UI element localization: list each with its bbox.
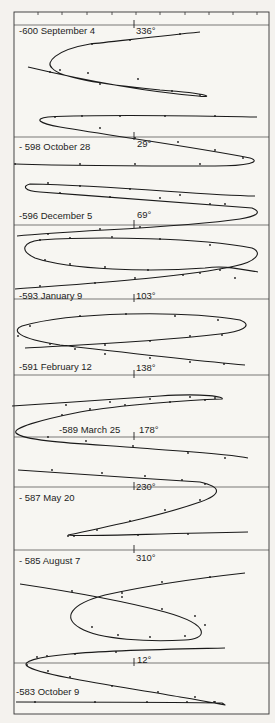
position-dot [199, 94, 201, 96]
position-dot [69, 676, 71, 678]
position-dot [187, 452, 189, 454]
position-dot [184, 635, 186, 637]
position-dot [99, 127, 101, 129]
longitude-label: 103° [136, 291, 156, 301]
position-dot [144, 475, 146, 477]
position-dot [194, 696, 196, 698]
position-dot [147, 269, 149, 271]
opposition-date-label: - 598 October 28 [19, 142, 90, 152]
position-dot [109, 401, 111, 403]
opposition-date-label: -593 January 9 [19, 291, 82, 301]
opposition-date-label: -589 March 25 [59, 425, 120, 435]
position-dot [121, 592, 123, 594]
position-dot [47, 182, 49, 184]
position-dot [157, 691, 159, 693]
position-dot [134, 137, 136, 139]
position-dot [209, 244, 211, 246]
position-dot [79, 163, 81, 165]
position-dot [139, 226, 141, 228]
position-dot [209, 576, 211, 578]
position-dot [111, 236, 113, 238]
longitude-label: 12° [137, 655, 151, 665]
position-dot [39, 285, 41, 287]
position-dot [217, 319, 219, 321]
position-dot [87, 72, 89, 74]
position-dot [219, 269, 221, 271]
position-dot [61, 414, 63, 416]
position-dot [149, 398, 151, 400]
position-dot [117, 634, 119, 636]
position-dot [214, 149, 216, 151]
position-dot [221, 334, 223, 336]
longitude-label: 178° [139, 425, 159, 435]
position-dot [69, 263, 71, 265]
position-dot [104, 344, 106, 346]
opposition-date-label: -596 December 5 [19, 211, 92, 221]
position-dot [179, 194, 181, 196]
position-dot [47, 233, 49, 235]
position-dot [81, 115, 83, 117]
position-dot [234, 277, 236, 279]
position-dot [71, 590, 73, 592]
position-dot [179, 33, 181, 35]
longitude-label: 69° [137, 210, 151, 220]
position-dot [47, 670, 49, 672]
position-dot [132, 445, 134, 447]
position-dot [26, 664, 28, 666]
position-dot [164, 115, 166, 117]
position-dot [134, 163, 136, 165]
position-dot [109, 196, 111, 198]
position-dot [161, 581, 163, 583]
position-dot [204, 399, 206, 401]
position-dot [213, 701, 215, 703]
position-dot [119, 115, 121, 117]
position-dot [174, 315, 176, 317]
opposition-date-label: - 585 August 7 [19, 556, 80, 566]
position-dot [242, 157, 244, 159]
position-dot [49, 71, 51, 73]
position-dot [171, 90, 173, 92]
position-dot [101, 472, 103, 474]
position-dot [209, 203, 211, 205]
position-dot [29, 325, 31, 327]
position-dot [159, 197, 161, 199]
position-dot [59, 69, 61, 71]
position-dot [137, 78, 139, 80]
position-dot [199, 272, 201, 274]
position-dot [137, 534, 139, 536]
position-dot [204, 624, 206, 626]
position-dot [129, 188, 131, 190]
longitude-label: 230° [136, 482, 156, 492]
position-dot [74, 653, 76, 655]
opposition-date-label: - 587 May 20 [19, 493, 74, 503]
position-dot [204, 483, 206, 485]
position-dot [51, 469, 53, 471]
position-dot [49, 343, 51, 345]
position-dot [199, 499, 201, 501]
position-dot [149, 357, 151, 359]
position-dot [224, 457, 226, 459]
position-dot [149, 340, 151, 342]
position-dot [111, 685, 113, 687]
position-dot [65, 404, 67, 406]
position-dot [59, 192, 61, 194]
position-dot [99, 83, 101, 85]
position-dot [99, 228, 101, 230]
position-dot [129, 39, 131, 41]
position-dot [189, 361, 191, 363]
position-dot [94, 701, 96, 703]
position-dot [181, 479, 183, 481]
position-dot [189, 396, 191, 398]
position-dot [46, 655, 48, 657]
position-dot [146, 701, 148, 703]
position-dot [73, 535, 75, 537]
position-dot [125, 313, 127, 315]
position-dot [91, 626, 93, 628]
position-dot [186, 701, 188, 703]
position-dot [47, 436, 49, 438]
position-dot [189, 335, 191, 337]
position-dot [224, 203, 226, 205]
position-dot [96, 529, 98, 531]
position-dot [94, 282, 96, 284]
longitude-label: 29° [137, 139, 151, 149]
